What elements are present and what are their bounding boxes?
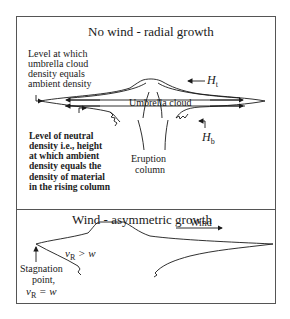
umbrella-cloud-label: Umbrella cloud: [129, 98, 191, 108]
neutral-density-label-5: density of material: [29, 172, 105, 182]
h-top-label: Ht: [207, 73, 218, 89]
eruption-column-label-1: Eruption: [131, 154, 166, 164]
h-bottom-label: Hb: [202, 130, 215, 146]
vr-greater-than-w-label: vR > w: [65, 247, 96, 262]
neutral-density-label-1: Level of neutral: [29, 131, 93, 141]
top-panel-title: No wind - radial growth: [88, 24, 214, 40]
neutral-density-label-4: density equals the: [29, 161, 101, 171]
neutral-density-label-2: density i.e., height: [29, 141, 102, 151]
umbrella-level-label-4: ambient density: [28, 79, 92, 89]
neutral-density-label-6: in the rising column: [29, 182, 110, 192]
stagnation-label-2: point,: [32, 275, 55, 285]
eruption-column-label-2: column: [135, 165, 165, 175]
neutral-density-label-3: at which ambient: [29, 151, 99, 161]
wind-label: Wind: [190, 218, 212, 228]
stagnation-label-1: Stagnation: [20, 264, 63, 274]
vr-equals-w-label: vR = w: [26, 285, 57, 300]
